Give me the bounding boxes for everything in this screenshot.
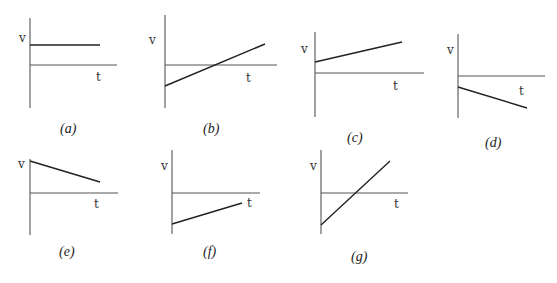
t-axis-label: t bbox=[394, 197, 399, 211]
v-axis-label: v bbox=[160, 159, 168, 173]
graph-panel-c: vt(c) bbox=[300, 32, 424, 146]
v-axis-label: v bbox=[446, 43, 454, 57]
v-axis-label: v bbox=[17, 157, 25, 171]
v-axis-label: v bbox=[300, 42, 308, 56]
panel-caption: (a) bbox=[60, 121, 77, 137]
panel-caption: (d) bbox=[485, 135, 502, 151]
panel-caption: (b) bbox=[203, 121, 220, 137]
t-axis-label: t bbox=[393, 79, 398, 93]
graph-panel-g: vt(g) bbox=[309, 150, 408, 265]
graph-panel-f: vt(f) bbox=[160, 150, 260, 260]
t-axis-label: t bbox=[247, 196, 252, 210]
t-axis-label: t bbox=[519, 84, 524, 98]
panel-caption: (f) bbox=[203, 244, 217, 260]
t-axis-label: t bbox=[246, 71, 251, 85]
panel-caption: (e) bbox=[59, 244, 75, 260]
panel-caption: (c) bbox=[347, 130, 363, 146]
graph-panel-d: vt(d) bbox=[446, 34, 545, 151]
t-axis-label: t bbox=[94, 197, 99, 211]
graph-panel-b: vt(b) bbox=[148, 15, 277, 137]
t-axis-label: t bbox=[96, 70, 101, 84]
v-axis-label: v bbox=[18, 31, 26, 45]
v-axis-label: v bbox=[309, 159, 317, 173]
panel-caption: (g) bbox=[351, 249, 368, 265]
velocity-line bbox=[30, 161, 100, 182]
v-axis-label: v bbox=[148, 33, 156, 47]
velocity-line bbox=[458, 87, 527, 108]
graph-panel-e: vt(e) bbox=[17, 157, 118, 260]
velocity-time-graphs-figure: vt(a)vt(b)vt(c)vt(d)vt(e)vt(f)vt(g) bbox=[0, 0, 557, 283]
velocity-line bbox=[172, 203, 242, 224]
velocity-line bbox=[315, 42, 402, 62]
graph-panel-a: vt(a) bbox=[18, 18, 117, 137]
